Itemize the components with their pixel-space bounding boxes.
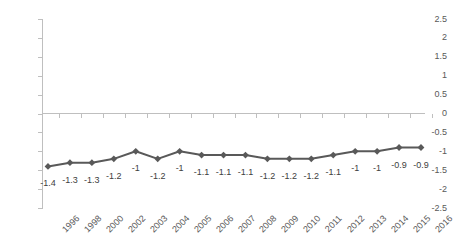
- data-point-marker: [45, 163, 52, 170]
- data-point-marker: [242, 152, 249, 159]
- data-point-marker: [374, 148, 381, 155]
- data-point-marker: [396, 144, 403, 151]
- data-point-marker: [198, 152, 205, 159]
- data-point-marker: [308, 155, 315, 162]
- data-point-marker: [176, 148, 183, 155]
- data-point-marker: [132, 148, 139, 155]
- data-point-label: -0.9: [408, 161, 434, 170]
- data-point-marker: [88, 159, 95, 166]
- data-point-marker: [352, 148, 359, 155]
- data-point-marker: [330, 152, 337, 159]
- data-point-marker: [110, 155, 117, 162]
- data-point-marker: [264, 155, 271, 162]
- data-point-marker: [154, 155, 161, 162]
- data-point-marker: [67, 159, 74, 166]
- data-point-marker: [286, 155, 293, 162]
- data-point-marker: [220, 152, 227, 159]
- data-point-marker: [418, 144, 425, 151]
